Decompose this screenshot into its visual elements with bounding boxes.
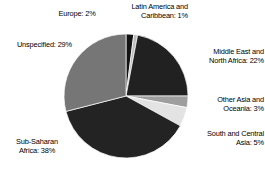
- slice-label-europe: Europe: 2%: [48, 9, 106, 18]
- slice-label-unspecified: Unspecified: 29%: [2, 40, 72, 49]
- slice-label-south-central-asia: South and Central Asia: 5%: [190, 129, 264, 147]
- pie-slice-group: [64, 34, 188, 158]
- slice-label-middle-east-north-africa: Middle East and North Africa: 22%: [186, 47, 264, 65]
- pie-chart-figure: Europe: 2% Latin America and Caribbean: …: [0, 0, 265, 187]
- slice-label-other-asia-oceania: Other Asia and Oceania: 3%: [196, 95, 264, 113]
- slice-label-sub-saharan-africa: Sub-Saharan Africa: 38%: [2, 137, 72, 155]
- slice-label-latin-america-caribbean: Latin America and Caribbean: 1%: [116, 2, 188, 20]
- pie-chart-graphic: [0, 0, 265, 187]
